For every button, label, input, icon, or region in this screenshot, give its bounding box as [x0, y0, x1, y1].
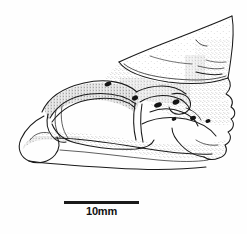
figure-panel: 10mm	[0, 0, 247, 234]
pier-strut-2	[141, 104, 143, 142]
scale-bar-line	[64, 201, 139, 204]
specimen-illustration	[0, 0, 247, 234]
scale-bar: 10mm	[64, 201, 139, 218]
ventral-bar-lower	[29, 161, 206, 169]
scale-bar-label: 10mm	[64, 205, 139, 218]
